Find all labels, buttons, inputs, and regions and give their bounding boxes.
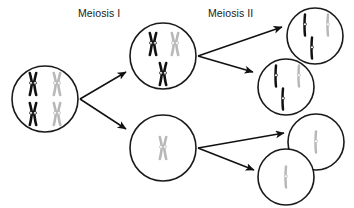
meiosis-one-upper-daughter-cell [130, 23, 196, 89]
arrow-parent-to-meiosis1-lower [80, 99, 126, 129]
arrow-meiosis1-lower-to-gamete-three [198, 133, 284, 148]
gamete-cell-two [258, 59, 314, 115]
cell-membrane [130, 23, 196, 89]
stage-label-meiosis-two: Meiosis II [208, 7, 253, 19]
cell-membrane [258, 59, 314, 115]
arrow-meiosis1-upper-to-gamete-two [198, 56, 253, 72]
meiosis-one-lower-daughter-cell [130, 115, 196, 181]
meiosis-diagram: chromosomes duplicate [0, 0, 354, 208]
gamete-cell-four [258, 149, 314, 205]
arrow-meiosis1-upper-to-gamete-one [198, 27, 282, 56]
cell-membrane [12, 66, 78, 132]
arrow-meiosis1-lower-to-gamete-four [198, 148, 254, 170]
arrow-parent-to-meiosis1-upper [80, 72, 126, 99]
meiosis-diagram-canvas [0, 0, 354, 208]
parent-diploid-cell [12, 66, 78, 132]
stage-label-meiosis-one: Meiosis I [78, 7, 120, 19]
cell-membrane [287, 8, 343, 64]
gamete-cell-one [287, 8, 343, 64]
